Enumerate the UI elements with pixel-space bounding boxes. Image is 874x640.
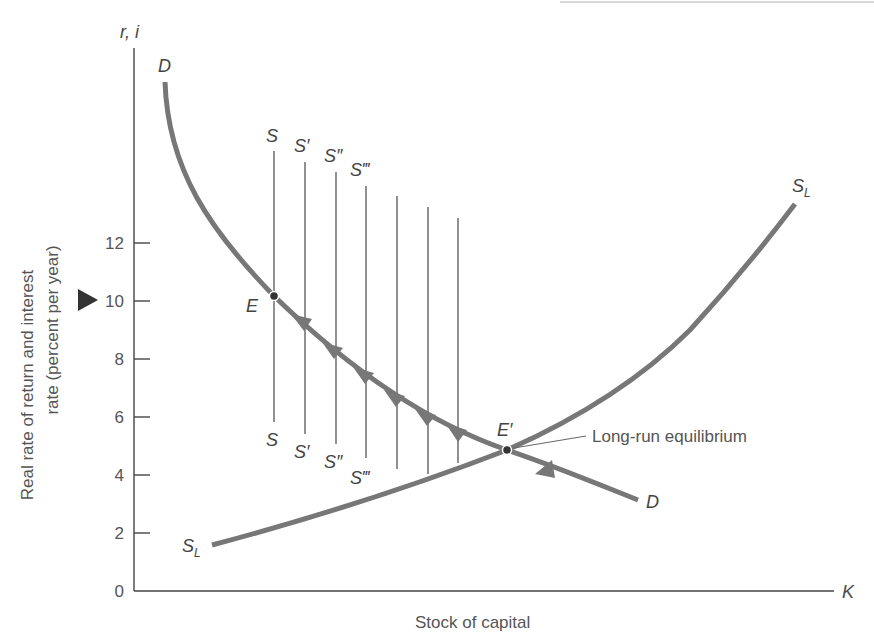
long-run-supply-curve bbox=[212, 204, 795, 545]
x-axis-title: Stock of capital bbox=[415, 613, 530, 632]
tick-marker-icon bbox=[78, 289, 98, 311]
tick-label-0: 0 bbox=[115, 582, 124, 601]
tick-label-8: 8 bbox=[115, 350, 124, 369]
x-axis-symbol: K bbox=[842, 582, 855, 602]
tick-label-6: 6 bbox=[115, 408, 124, 427]
y-axis-symbol: r, i bbox=[120, 22, 140, 42]
label-S3-bottom: S‴ bbox=[350, 468, 371, 488]
y-axis-title-line1: Real rate of return and interest bbox=[18, 269, 37, 500]
demand-curve bbox=[165, 82, 638, 500]
label-S1-bottom: S′ bbox=[294, 442, 310, 462]
label-SL-right: SL bbox=[792, 176, 811, 200]
y-ticks: 12 10 8 6 4 2 0 bbox=[78, 234, 150, 601]
tick-label-12: 12 bbox=[105, 234, 124, 253]
label-S-bottom: S bbox=[266, 430, 278, 450]
short-run-supply-lines: S S′ S″ S‴ S S′ S″ S‴ bbox=[266, 126, 458, 488]
label-SL-left: SL bbox=[182, 536, 201, 560]
tick-label-4: 4 bbox=[115, 466, 124, 485]
label-D-top: D bbox=[158, 56, 171, 76]
y-axis-title-line2: rate (percent per year) bbox=[43, 245, 62, 414]
label-E: E bbox=[246, 296, 259, 316]
tick-label-2: 2 bbox=[115, 524, 124, 543]
label-S-top: S bbox=[266, 126, 278, 146]
point-E-prime bbox=[503, 446, 512, 455]
label-S3-top: S‴ bbox=[350, 160, 371, 180]
label-S2-top: S″ bbox=[324, 146, 343, 166]
label-D-end: D bbox=[646, 492, 659, 512]
tick-label-10: 10 bbox=[105, 292, 124, 311]
point-E bbox=[270, 292, 279, 301]
capital-market-chart: r, i K Stock of capital Real rate of ret… bbox=[0, 0, 874, 640]
label-E-prime: E′ bbox=[497, 420, 513, 440]
label-S1-top: S′ bbox=[294, 136, 310, 156]
annotation-long-run-equilibrium: Long-run equilibrium bbox=[592, 427, 747, 446]
label-S2-bottom: S″ bbox=[324, 452, 343, 472]
axes: r, i K Stock of capital Real rate of ret… bbox=[18, 22, 855, 632]
